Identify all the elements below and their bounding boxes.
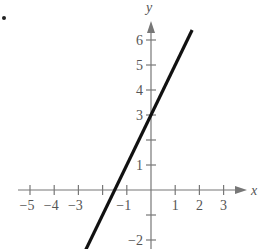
x-tick-label: −4 [44,198,59,213]
y-tick-label: 6 [136,33,143,48]
x-tick-label: −3 [68,198,83,213]
y-axis-label: y [144,0,153,15]
x-tick-label: 1 [172,198,179,213]
x-tick-label: −1 [116,198,131,213]
x-tick-label: −5 [20,198,35,213]
x-tick-label: 3 [220,198,227,213]
y-tick-label: −2 [128,233,143,248]
x-axis-label: x [250,183,258,198]
bullet-marker [2,16,6,20]
x-axis-arrow-icon [235,186,247,194]
y-tick-label: 3 [136,108,143,123]
y-tick-label: 4 [136,83,143,98]
y-tick-label: 1 [136,158,143,173]
y-tick-label: 5 [136,58,143,73]
y-axis: −213456 y [128,0,156,249]
y-axis-arrow-icon [147,21,155,33]
x-tick-label: 2 [196,198,203,213]
x-axis: −5−4−3−1123 x [18,183,258,213]
line-graph: −5−4−3−1123 x −213456 y [0,0,262,249]
